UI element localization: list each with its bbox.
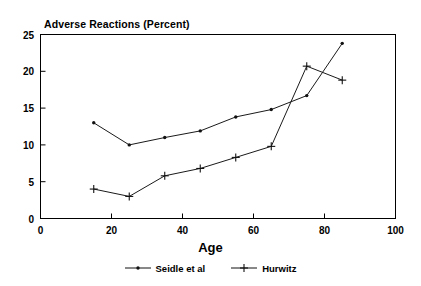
y-tick-label: 15 [8, 103, 34, 114]
data-point-marker [270, 108, 273, 111]
x-axis-label: Age [0, 240, 421, 255]
series-line-2 [94, 66, 343, 196]
chart-title: Adverse Reactions (Percent) [44, 18, 190, 30]
x-tick-label: 0 [38, 225, 44, 236]
y-tick-label: 20 [8, 66, 34, 77]
data-point-marker [163, 136, 166, 139]
y-tick-label: 10 [8, 139, 34, 150]
data-point-marker [234, 115, 237, 118]
data-point-marker [199, 129, 202, 132]
x-tick-label: 100 [387, 225, 404, 236]
data-point-marker [341, 42, 344, 45]
data-series-2 [90, 62, 347, 200]
legend-label: Hurwitz [262, 263, 296, 274]
data-point-marker [305, 94, 308, 97]
x-tick-label: 40 [177, 225, 188, 236]
legend-entry[interactable]: Hurwitz [231, 262, 296, 274]
legend-label: Seidle et al [156, 263, 206, 274]
legend-entry[interactable]: Seidle et al [125, 262, 206, 274]
data-point-marker [92, 121, 95, 124]
dot-marker-icon [136, 266, 139, 269]
data-series-1 [92, 42, 344, 147]
x-tick-label: 60 [248, 225, 259, 236]
chart-figure: Adverse Reactions (Percent) 0510152025 0… [0, 0, 421, 286]
x-tick-label: 80 [319, 225, 330, 236]
chart-legend: Seidle et alHurwitz [0, 262, 421, 274]
y-tick-label: 25 [8, 29, 34, 40]
dot-marker-icon [125, 262, 151, 274]
x-tick-label: 20 [106, 225, 117, 236]
plus-marker-icon [231, 262, 257, 274]
y-tick-label: 5 [8, 176, 34, 187]
data-point-marker [128, 143, 131, 146]
series-line-1 [94, 43, 343, 145]
y-tick-label: 0 [8, 213, 34, 224]
